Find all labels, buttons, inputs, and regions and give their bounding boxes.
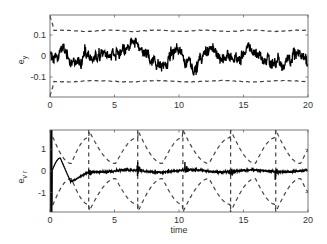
x-axis-label: time bbox=[170, 225, 187, 235]
y-tick-label: 0.1 bbox=[33, 30, 46, 40]
y-tick-label: -0.1 bbox=[30, 72, 46, 82]
figure: 05101520-0.100.1ey05101520-101ev rtime bbox=[0, 0, 327, 244]
plot-area bbox=[50, 16, 308, 96]
y-axis-label: ey bbox=[16, 55, 29, 64]
y-tick-label: 0 bbox=[41, 166, 46, 176]
upper-bound-line bbox=[50, 16, 308, 32]
x-tick-label: 10 bbox=[174, 215, 184, 225]
y-tick-label: 1 bbox=[41, 144, 46, 154]
x-tick-label: 5 bbox=[112, 100, 117, 110]
y-tick-label: -1 bbox=[38, 188, 46, 198]
y-axis-label: ev r bbox=[16, 170, 28, 183]
x-tick-label: 20 bbox=[303, 100, 313, 110]
x-tick-label: 0 bbox=[47, 100, 52, 110]
top-axes: 05101520-0.100.1ey bbox=[16, 15, 313, 110]
lower-bound-line bbox=[50, 80, 308, 96]
x-tick-label: 5 bbox=[112, 215, 117, 225]
bottom-axes: 05101520-101ev rtime bbox=[16, 130, 313, 235]
x-tick-label: 10 bbox=[174, 100, 184, 110]
plot-area bbox=[50, 130, 308, 212]
x-tick-label: 15 bbox=[238, 100, 248, 110]
x-tick-label: 15 bbox=[238, 215, 248, 225]
x-tick-label: 20 bbox=[303, 215, 313, 225]
y-tick-label: 0 bbox=[41, 51, 46, 61]
x-tick-label: 0 bbox=[47, 215, 52, 225]
error-signal-line bbox=[50, 38, 308, 75]
